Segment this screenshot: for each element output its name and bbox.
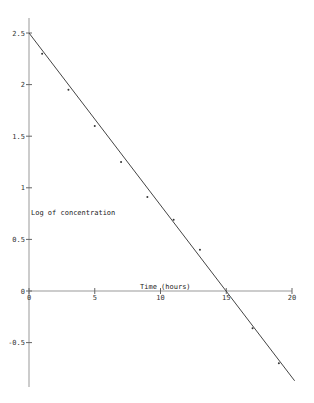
axes: 2.521.510.50-0.505101520 bbox=[8, 18, 296, 387]
y-tick-label: 1.5 bbox=[12, 133, 25, 141]
x-tick-label: 20 bbox=[288, 294, 296, 302]
data-point bbox=[120, 161, 122, 163]
data-point bbox=[278, 362, 280, 364]
data-point bbox=[67, 89, 69, 91]
data-point bbox=[94, 125, 96, 127]
data-point bbox=[252, 327, 254, 329]
y-tick-label: 0.5 bbox=[12, 236, 25, 244]
y-axis-title: Log of concentration bbox=[31, 209, 115, 217]
x-axis-title: Time (hours) bbox=[140, 283, 191, 291]
y-tick-label: 0 bbox=[21, 288, 25, 296]
data-point bbox=[146, 196, 148, 198]
x-tick-label: 0 bbox=[27, 294, 31, 302]
data-point bbox=[173, 219, 175, 221]
y-tick-label: 1 bbox=[21, 184, 25, 192]
y-tick-label: 2.5 bbox=[12, 30, 25, 38]
x-tick-label: 5 bbox=[93, 294, 97, 302]
x-tick-label: 10 bbox=[156, 294, 164, 302]
data-point bbox=[41, 53, 43, 55]
y-tick-label: -0.5 bbox=[8, 339, 25, 347]
chart: 2.521.510.50-0.505101520 Time (hours) Lo… bbox=[0, 0, 314, 403]
y-tick-label: 2 bbox=[21, 81, 25, 89]
fit-line bbox=[29, 33, 295, 381]
data-point bbox=[199, 249, 201, 251]
